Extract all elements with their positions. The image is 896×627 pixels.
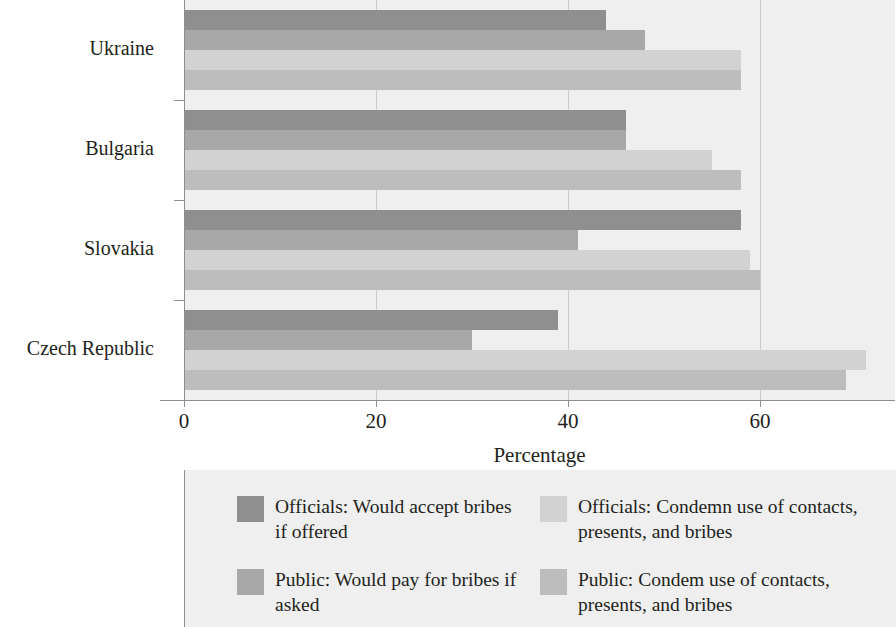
bar [184, 310, 558, 330]
bar [184, 170, 741, 190]
legend-label: Public: Condem use of contacts, presents… [578, 567, 870, 617]
category-label: Slovakia [84, 237, 154, 260]
bar [184, 250, 750, 270]
bar [184, 370, 846, 390]
x-axis-tick [568, 400, 569, 407]
category-label: Bulgaria [85, 137, 154, 160]
x-axis-line [160, 400, 895, 401]
bar [184, 30, 645, 50]
legend-swatch [237, 569, 264, 595]
bar [184, 150, 712, 170]
legend-label: Public: Would pay for bribes if asked [275, 567, 517, 617]
bar [184, 10, 606, 30]
category-label: Ukraine [90, 37, 154, 60]
legend-item: Public: Condem use of contacts, presents… [540, 567, 870, 617]
x-axis-tick-label: 20 [346, 409, 406, 434]
x-axis-tick-label: 0 [154, 409, 214, 434]
y-axis-tick [174, 200, 185, 201]
legend-swatch [540, 496, 567, 522]
legend-item: Public: Would pay for bribes if asked [237, 567, 517, 617]
bar [184, 350, 866, 370]
bar [184, 270, 760, 290]
x-axis-title: Percentage [184, 443, 895, 468]
legend-swatch [540, 569, 567, 595]
bar [184, 110, 626, 130]
bar [184, 130, 626, 150]
x-axis-tick-label: 60 [730, 409, 790, 434]
plot-area: UkraineBulgariaSlovakiaCzech Republic 02… [0, 0, 895, 400]
y-axis-tick [174, 100, 185, 101]
legend-label: Officials: Condemn use of contacts, pres… [578, 494, 870, 544]
bar [184, 330, 472, 350]
legend-label: Officials: Would accept bribes if offere… [275, 494, 517, 544]
category-label: Czech Republic [27, 337, 154, 360]
bar [184, 70, 741, 90]
legend-swatch [237, 496, 264, 522]
x-axis-tick [376, 400, 377, 407]
legend: Officials: Would accept bribes if offere… [184, 470, 896, 627]
bar [184, 210, 741, 230]
bar [184, 50, 741, 70]
gridline [760, 0, 761, 400]
bar [184, 230, 578, 250]
legend-item: Officials: Condemn use of contacts, pres… [540, 494, 870, 544]
x-axis-tick [760, 400, 761, 407]
x-axis-tick [184, 400, 185, 407]
x-axis-tick-label: 40 [538, 409, 598, 434]
y-axis-tick [174, 300, 185, 301]
legend-item: Officials: Would accept bribes if offere… [237, 494, 517, 544]
